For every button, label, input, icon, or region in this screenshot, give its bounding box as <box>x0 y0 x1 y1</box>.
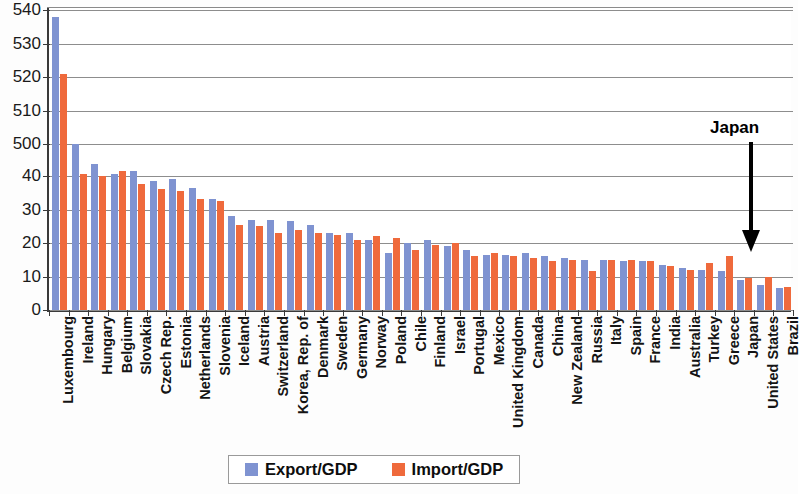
bar-export <box>287 221 294 310</box>
x-axis-tick-label: United Kingdom <box>511 316 526 428</box>
x-axis-tick-label: New Zealand <box>570 316 585 405</box>
bar-export <box>404 243 411 310</box>
x-axis-tick-label: Brazil <box>786 316 801 356</box>
bar-group <box>656 8 676 310</box>
bar-export <box>267 220 274 310</box>
bar-import <box>275 233 282 310</box>
y-axis-label-group: 540530520510500403020100 <box>0 8 41 312</box>
bar-import <box>80 174 87 310</box>
legend-swatch-icon <box>245 463 258 476</box>
bar-import <box>60 74 67 310</box>
x-axis-tick-label: Switzerland <box>276 316 291 397</box>
legend-label: Import/GDP <box>412 460 504 479</box>
bar-export <box>169 179 176 310</box>
bar-import <box>354 240 361 310</box>
bar-export <box>248 220 255 310</box>
bar-export <box>698 270 705 310</box>
y-axis-tick-label: 20 <box>22 234 41 251</box>
bar-import <box>608 260 615 310</box>
bar-export <box>209 199 216 310</box>
japan-annotation: Japan <box>700 118 796 258</box>
down-arrow-icon-shaft <box>749 142 753 236</box>
legend-swatch-icon <box>392 463 405 476</box>
bar-export <box>72 144 79 310</box>
bar-group <box>108 8 128 310</box>
bar-import <box>765 277 772 311</box>
bar-import <box>412 250 419 310</box>
x-axis-tick-label: Czech Rep. <box>159 316 174 394</box>
x-axis-tick-label: Sweden <box>335 316 350 371</box>
bar-import <box>119 171 126 310</box>
bar-export <box>150 181 157 310</box>
bar-export <box>483 255 490 310</box>
bar-export <box>620 261 627 310</box>
bar-group <box>206 8 226 310</box>
x-axis-tick-label: Japan <box>746 316 761 358</box>
x-axis-tick-label: Korea, Rep. of <box>296 316 311 414</box>
bar-export <box>522 253 529 310</box>
bar-group <box>245 8 265 310</box>
bar-export <box>718 271 725 310</box>
bar-group <box>636 8 656 310</box>
x-axis-tick-label: Luxembourg <box>61 316 76 404</box>
bar-import <box>99 176 106 310</box>
bar-import <box>373 236 380 310</box>
bar-export <box>52 17 59 310</box>
y-axis-tick-label: 30 <box>22 201 41 218</box>
bar-group <box>538 8 558 310</box>
bar-import <box>432 245 439 310</box>
bar-group <box>382 8 402 310</box>
bar-export <box>776 288 783 310</box>
bar-export <box>757 285 764 310</box>
x-axis-tick-label: Italy <box>609 316 624 345</box>
bar-export <box>307 225 314 310</box>
y-axis-tick-label: 530 <box>13 35 41 52</box>
x-axis-tick-label: China <box>551 316 566 356</box>
bar-group <box>519 8 539 310</box>
bar-group <box>49 8 69 310</box>
bar-export <box>130 171 137 310</box>
bar-export <box>91 164 98 310</box>
legend-item[interactable]: Export/GDP <box>245 460 358 479</box>
legend-item[interactable]: Import/GDP <box>392 460 504 479</box>
x-axis-tick-label: Germany <box>355 316 370 379</box>
bar-export <box>502 255 509 310</box>
x-axis-tick-label: Austria <box>257 316 272 366</box>
bar-import <box>647 261 654 310</box>
bar-import <box>549 261 556 310</box>
bar-group <box>284 8 304 310</box>
y-axis-tick-label: 0 <box>32 301 41 318</box>
y-axis-tick-label: 520 <box>13 68 41 85</box>
bar-export <box>365 240 372 310</box>
bar-export <box>737 280 744 310</box>
x-axis-tick-label: Norway <box>374 316 389 368</box>
bar-export <box>385 253 392 310</box>
x-axis-tick-label: Chile <box>414 316 429 351</box>
x-axis-tick-label: France <box>648 316 663 364</box>
x-axis-tick-label: Russia <box>590 316 605 364</box>
x-axis-tick-label: United States <box>766 316 781 409</box>
x-axis-tick-label: Poland <box>394 316 409 364</box>
x-axis-label-group: LuxembourgIrelandHungaryBelgiumSlovakiaC… <box>47 316 791 442</box>
bar-export <box>326 233 333 310</box>
bar-export <box>581 260 588 310</box>
bar-group <box>147 8 167 310</box>
x-axis-tick-label: Iceland <box>237 316 252 366</box>
x-axis-tick-label: Portugal <box>472 316 487 375</box>
bar-import <box>138 184 145 310</box>
bar-import <box>667 266 674 310</box>
bar-group <box>578 8 598 310</box>
down-arrow-icon-head <box>742 230 760 252</box>
y-axis-tick-label: 540 <box>13 1 41 18</box>
bar-export <box>659 265 666 310</box>
x-axis-tick-label: Belgium <box>120 316 135 373</box>
bar-import <box>197 199 204 310</box>
bar-import <box>510 256 517 310</box>
bar-import <box>589 271 596 310</box>
bar-group <box>88 8 108 310</box>
bar-import <box>706 263 713 310</box>
bar-import <box>158 189 165 310</box>
bar-import <box>726 256 733 310</box>
bar-group <box>304 8 324 310</box>
x-axis-tick-label: Turkey <box>707 316 722 362</box>
